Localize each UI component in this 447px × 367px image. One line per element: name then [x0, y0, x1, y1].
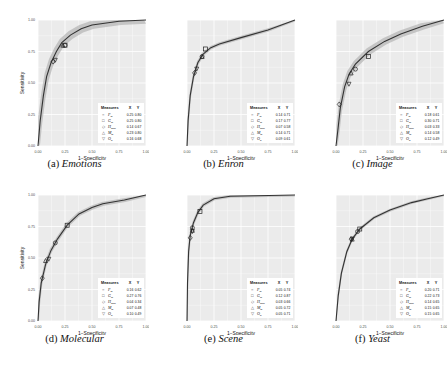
legend-x-value: 0.16: [127, 288, 134, 292]
legend-y-value: 0.65: [433, 300, 440, 304]
legend-y-value: 0.71: [433, 119, 440, 123]
legend: MeasuresXY○Fm0.140.71□Gm0.170.77◇Hmea0.0…: [247, 103, 293, 143]
legend-y-value: 0.61: [284, 137, 291, 141]
legend: MeasuresXY○Fm0.050.74□Gm0.120.87◇Hmea0.0…: [247, 278, 293, 318]
legend-x-value: 0.18: [425, 113, 432, 117]
x-tick-label: 0.75: [265, 325, 272, 329]
legend-y-value: 0.73: [433, 294, 440, 298]
legend-x-value: 0.17: [276, 119, 283, 123]
x-tick-label: 0.00: [333, 325, 340, 329]
y-tick-label: 1.00: [28, 193, 35, 197]
y-tick-label: 0.50: [28, 81, 35, 85]
legend-y-value: 0.71: [284, 131, 291, 135]
legend-col-x: X: [278, 281, 281, 285]
x-tick-label: 0.25: [211, 325, 218, 329]
legend-x-value: 0.12: [425, 137, 432, 141]
roc-panel-yeast: 0.000.250.500.751.001−SpecificityMeasure…: [298, 175, 447, 350]
legend-title: Measures: [250, 281, 268, 285]
legend-y-value: 0.72: [284, 306, 291, 310]
legend-x-value: 0.14: [276, 131, 283, 135]
y-tick-label: 0.75: [28, 225, 35, 229]
legend-y-value: 0.71: [284, 312, 291, 316]
legend-x-value: 0.25: [127, 113, 134, 117]
x-tick-label: 0.75: [265, 150, 272, 154]
legend-x-value: 0.15: [425, 306, 432, 310]
legend-x-value: 0.30: [425, 119, 432, 123]
x-tick-label: 0.50: [238, 325, 245, 329]
legend-y-value: 0.34: [135, 300, 142, 304]
legend-y-value: 0.80: [135, 131, 142, 135]
y-axis-label: Sensitivity: [19, 246, 25, 269]
x-tick-label: 0.25: [360, 150, 367, 154]
legend-y-value: 0.49: [433, 137, 440, 141]
y-tick-label: 0.75: [28, 50, 35, 54]
legend-x-value: 0.14: [425, 300, 432, 304]
legend-y-value: 0.67: [135, 125, 142, 129]
legend: MeasuresXY○Fm0.200.71□Gm0.220.73◇Hmea0.1…: [396, 278, 442, 318]
legend-x-value: 0.12: [276, 294, 283, 298]
legend-col-y: Y: [286, 106, 289, 110]
legend-x-value: 0.03: [276, 300, 283, 304]
legend-x-value: 0.27: [127, 294, 134, 298]
legend-x-value: 0.05: [276, 312, 283, 316]
x-tick-label: 0.50: [89, 150, 96, 154]
legend-title: Measures: [101, 106, 119, 110]
legend-col-x: X: [427, 281, 430, 285]
roc-chart-yeast: 0.000.250.500.751.001−SpecificityMeasure…: [298, 175, 447, 335]
x-tick-label: 0.50: [238, 150, 245, 154]
legend-y-value: 0.61: [433, 113, 440, 117]
legend-y-value: 0.68: [135, 137, 142, 141]
x-tick-label: 0.25: [62, 150, 69, 154]
legend-y-value: 0.80: [135, 113, 142, 117]
legend-y-value: 0.65: [433, 306, 440, 310]
legend-x-value: 0.07: [276, 125, 283, 129]
x-tick-label: 0.00: [35, 325, 42, 329]
legend-y-value: 0.62: [135, 288, 142, 292]
roc-chart-emotions: 0.000.250.500.751.001−Specificity0.000.2…: [0, 0, 149, 160]
x-tick-label: 0.50: [89, 325, 96, 329]
legend-col-y: Y: [435, 281, 438, 285]
legend-title: Measures: [101, 281, 119, 285]
legend-y-value: 0.76: [135, 294, 142, 298]
caption-emotions: (a) Emotions: [0, 158, 149, 169]
legend-y-value: 0.58: [433, 131, 440, 135]
roc-panel-scene: 0.000.250.500.751.001−SpecificityMeasure…: [149, 175, 298, 350]
legend-y-value: 0.33: [433, 125, 440, 129]
legend-col-x: X: [278, 106, 281, 110]
legend-col-x: X: [427, 106, 430, 110]
x-tick-label: 0.75: [414, 150, 421, 154]
legend-y-value: 0.80: [135, 119, 142, 123]
caption-yeast: (f) Yeast: [298, 333, 447, 344]
x-tick-label: 0.25: [62, 325, 69, 329]
x-tick-label: 0.25: [360, 325, 367, 329]
legend-y-value: 0.87: [284, 294, 291, 298]
caption-scene: (e) Scene: [149, 333, 298, 344]
y-tick-label: 0.25: [28, 113, 35, 117]
legend-x-value: 0.25: [127, 119, 134, 123]
roc-chart-image: 0.000.250.500.751.001−SpecificityMeasure…: [298, 0, 447, 160]
x-tick-label: 0.75: [414, 325, 421, 329]
legend-y-value: 0.49: [135, 312, 142, 316]
x-tick-label: 0.50: [387, 150, 394, 154]
legend-x-value: 0.14: [276, 113, 283, 117]
roc-panel-enron: 0.000.250.500.751.001−SpecificityMeasure…: [149, 0, 298, 175]
x-tick-label: 0.00: [184, 325, 191, 329]
legend-col-x: X: [129, 106, 132, 110]
legend-col-x: X: [129, 281, 132, 285]
roc-chart-molecular: 0.000.250.500.751.001−Specificity0.000.2…: [0, 175, 149, 335]
legend-x-value: 0.05: [276, 288, 283, 292]
legend: MeasuresXY○Fm0.160.62□Gm0.270.76◇Hmea0.0…: [98, 278, 144, 318]
legend-title: Measures: [399, 106, 417, 110]
x-tick-label: 0.00: [184, 150, 191, 154]
roc-panel-emotions: 0.000.250.500.751.001−Specificity0.000.2…: [0, 0, 149, 175]
y-tick-label: 0.00: [28, 319, 35, 323]
caption-image: (c) Image: [298, 158, 447, 169]
legend: MeasuresXY○Fm0.250.80□Gm0.250.80◇Hmea0.1…: [98, 103, 144, 143]
legend-col-y: Y: [137, 281, 140, 285]
x-tick-label: 0.75: [116, 150, 123, 154]
legend-x-value: 0.20: [425, 288, 432, 292]
legend-col-y: Y: [137, 106, 140, 110]
legend-y-value: 0.71: [433, 288, 440, 292]
legend-col-y: Y: [286, 281, 289, 285]
legend-x-value: 0.04: [127, 300, 134, 304]
